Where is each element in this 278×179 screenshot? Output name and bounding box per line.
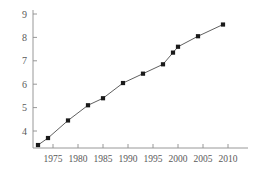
y-axis-ticks (33, 14, 37, 131)
data-series-group (36, 22, 225, 147)
x-axis-ticks (53, 144, 228, 148)
y-axis-tick-label: 7 (22, 55, 27, 66)
x-axis-group: 19751980198519901995200020052010 (33, 144, 248, 164)
data-point-marker (101, 96, 105, 100)
series-line-path (38, 25, 223, 146)
data-point-marker (66, 118, 70, 122)
line-chart-plot: 456789 19751980198519901995200020052010 (0, 0, 278, 179)
data-point-marker (171, 51, 175, 55)
x-axis-tick-labels: 19751980198519901995200020052010 (44, 154, 238, 164)
data-point-marker (221, 22, 225, 26)
data-point-marker (121, 81, 125, 85)
x-axis-tick-label: 1985 (94, 154, 113, 164)
data-point-marker (86, 103, 90, 107)
x-axis-tick-label: 1995 (144, 154, 163, 164)
data-point-marker (176, 45, 180, 49)
x-axis-tick-label: 1990 (119, 154, 138, 164)
chart-container: 456789 19751980198519901995200020052010 (0, 0, 278, 179)
data-point-marker (196, 34, 200, 38)
series-data-markers (36, 22, 225, 147)
x-axis-tick-label: 2010 (219, 154, 238, 164)
y-axis-tick-label: 8 (22, 32, 27, 43)
y-axis-tick-label: 6 (22, 79, 27, 90)
data-point-marker (161, 62, 165, 66)
y-axis-group: 456789 (22, 9, 37, 149)
x-axis-tick-label: 1975 (44, 154, 63, 164)
y-axis-tick-label: 5 (22, 102, 27, 113)
data-point-marker (141, 72, 145, 76)
x-axis-tick-label: 2005 (194, 154, 213, 164)
y-axis-tick-label: 9 (22, 9, 27, 20)
data-point-marker (36, 143, 40, 147)
y-axis-tick-label: 4 (22, 126, 27, 137)
x-axis-tick-label: 1980 (69, 154, 88, 164)
y-axis-tick-labels: 456789 (22, 9, 27, 137)
data-point-marker (46, 136, 50, 140)
x-axis-tick-label: 2000 (169, 154, 188, 164)
